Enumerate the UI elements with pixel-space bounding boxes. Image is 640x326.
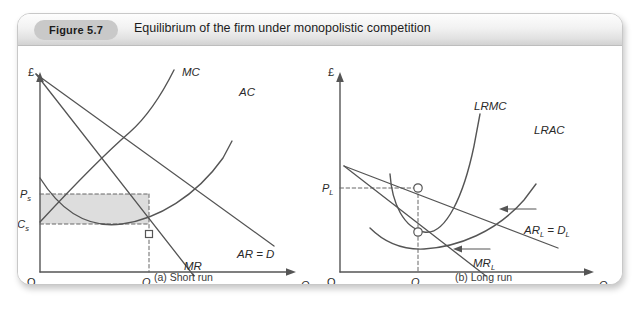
price-label: PL [322,182,334,197]
chart-caption-long-run: (b) Long run [332,271,623,283]
chart-caption-short-run: (a) Short run [32,271,335,283]
equilibrium-marker [146,231,153,238]
tangency-marker [414,184,422,192]
ar-d-curve-label: AR = D [236,248,274,260]
figure-number-badge: Figure 5.7 [34,20,118,40]
chart-long-run: £ Q O PL QL LRMC LRAC ARL = DL MRL (b) L… [318,46,621,285]
lrac-curve-label: LRAC [534,124,565,136]
y-axis-arrow [336,72,344,82]
price-label: Ps [20,188,31,203]
cost-label: ACs [18,218,29,233]
lrac-curve [370,184,536,249]
lrmc-curve-label: LRMC [474,100,507,112]
y-axis-label: £ [28,66,34,78]
mr-curve [36,74,194,276]
shift-arrow-ar-head [499,206,508,213]
lrmc-curve [390,114,480,232]
figure-body: £ Q O Ps ACs Qs MC AC AR = D MR (a) Shor… [18,46,622,285]
figure-header: Figure 5.7 Equilibrium of the firm under… [18,14,622,46]
figure-title: Equilibrium of the firm under monopolist… [134,21,431,35]
figure-number-label: Figure 5.7 [49,24,103,36]
mc-curve-label: MC [182,66,201,78]
figure-panel: Figure 5.7 Equilibrium of the firm under… [17,13,623,285]
figure-page: Figure 5.7 Equilibrium of the firm under… [0,0,640,326]
ac-curve-label: AC [238,86,256,98]
chart-short-run: £ Q O Ps ACs Qs MC AC AR = D MR (a) Shor… [18,46,321,285]
y-axis-label: £ [328,66,334,78]
mr-l-curve-label: MRL [473,257,495,272]
ar-l-d-l-curve-label: ARL = DL [523,224,570,239]
mr-lrmc-marker [414,228,422,236]
